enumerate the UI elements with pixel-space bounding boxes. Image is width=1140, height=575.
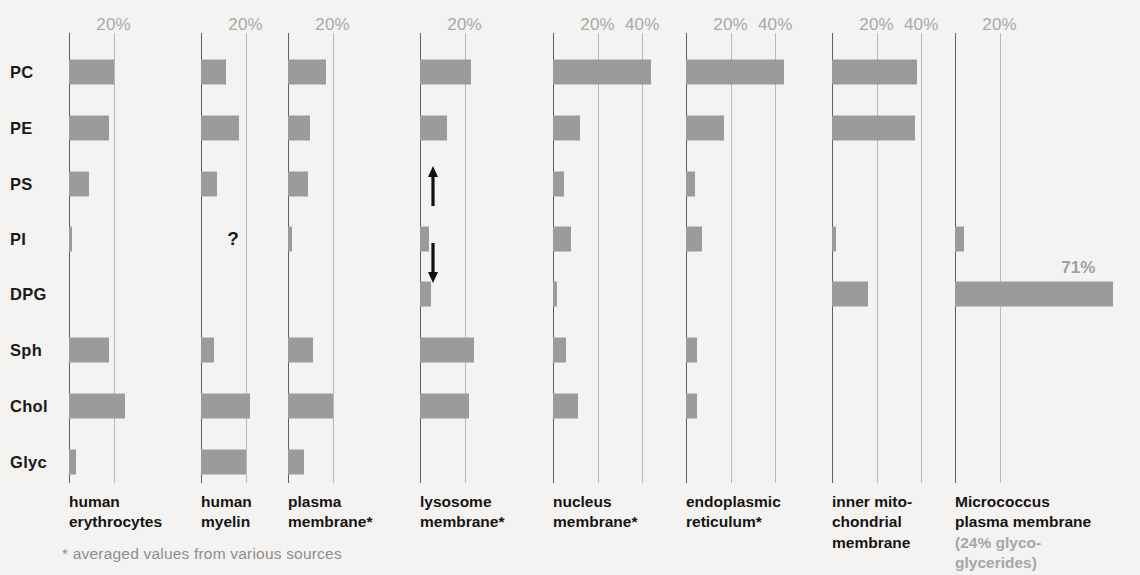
panel-baseline <box>955 33 956 483</box>
bar-value-dpg: 71% <box>1061 259 1095 276</box>
tick-label-20pct: 20% <box>982 16 1017 33</box>
bar-pi <box>955 227 964 252</box>
column-caption-7: Micrococcus plasma membrane (24% glyco- … <box>955 492 1091 574</box>
gridline-20pct <box>1000 33 1001 483</box>
panel-micrococcus-plasma-membrane: 20%71% <box>0 0 1140 575</box>
footnote: * averaged values from various sources <box>62 545 342 563</box>
bar-dpg <box>955 282 1113 307</box>
column-subcaption-7: (24% glyco- glycerides) <box>955 533 1091 574</box>
membrane-lipid-composition-chart: PCPEPSPIDPGSphCholGlyc20%human erythrocy… <box>0 0 1140 575</box>
